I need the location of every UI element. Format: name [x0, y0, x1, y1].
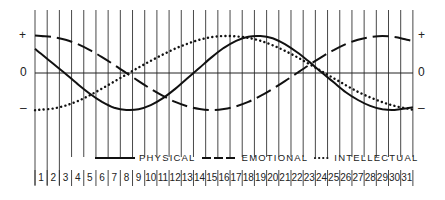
biorhythm-chart: [0, 0, 445, 200]
minus-label-left: –: [20, 101, 27, 115]
zero-label-left: 0: [20, 65, 27, 79]
day-number: 24: [315, 172, 327, 183]
dotted-line-icon: [314, 155, 330, 161]
day-number: 13: [181, 172, 193, 183]
day-number: 19: [254, 172, 266, 183]
day-number: 29: [376, 172, 388, 183]
day-number: 5: [84, 172, 96, 183]
day-number: 1: [35, 172, 47, 183]
legend: PHYSICAL EMOTIONAL INTELLECTUAL: [95, 152, 424, 163]
day-number: 2: [47, 172, 59, 183]
zero-label-right: 0: [418, 65, 425, 79]
minus-label-right: –: [418, 101, 425, 115]
day-number: 10: [145, 172, 157, 183]
day-number: 3: [59, 172, 71, 183]
day-number: 11: [157, 172, 169, 183]
day-number: 30: [389, 172, 401, 183]
day-number: 25: [328, 172, 340, 183]
legend-physical: PHYSICAL: [95, 152, 196, 163]
day-number: 18: [242, 172, 254, 183]
solid-line-icon: [95, 155, 135, 161]
dashed-line-icon: [202, 155, 238, 161]
day-number: 8: [120, 172, 132, 183]
day-number: 26: [340, 172, 352, 183]
day-number: 6: [96, 172, 108, 183]
legend-emotional: EMOTIONAL: [202, 152, 309, 163]
day-number: 7: [108, 172, 120, 183]
day-number: 17: [230, 172, 242, 183]
plus-label-left: +: [19, 28, 26, 42]
day-number: 16: [218, 172, 230, 183]
day-number: 21: [279, 172, 291, 183]
legend-intellectual-label: INTELLECTUAL: [334, 152, 418, 163]
legend-emotional-label: EMOTIONAL: [242, 152, 309, 163]
day-number: 20: [267, 172, 279, 183]
day-number: 4: [72, 172, 84, 183]
day-number: 15: [206, 172, 218, 183]
day-number: 23: [303, 172, 315, 183]
day-number: 12: [169, 172, 181, 183]
day-number: 31: [401, 172, 413, 183]
day-number: 27: [352, 172, 364, 183]
day-number: 22: [291, 172, 303, 183]
plus-label-right: +: [418, 28, 425, 42]
legend-physical-label: PHYSICAL: [139, 152, 196, 163]
day-number: 9: [133, 172, 145, 183]
day-number: 14: [193, 172, 205, 183]
day-number: 28: [364, 172, 376, 183]
legend-intellectual: INTELLECTUAL: [314, 152, 418, 163]
